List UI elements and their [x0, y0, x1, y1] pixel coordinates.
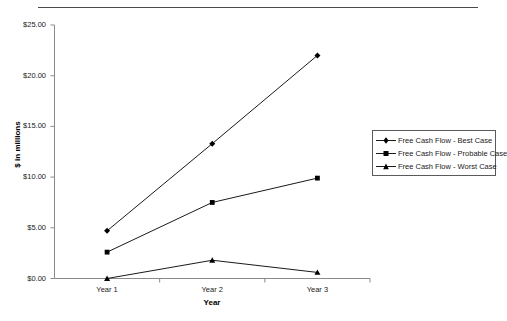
triangle-marker-icon	[376, 161, 396, 172]
chart-legend: Free Cash Flow - Best Case Free Cash Flo…	[372, 130, 496, 176]
axis-lines	[55, 25, 371, 279]
square-marker-icon	[376, 148, 396, 159]
y-axis-tick-label: $15.00	[2, 121, 46, 130]
y-axis-tick-label: $20.00	[2, 71, 46, 80]
x-axis-title: Year	[152, 298, 272, 307]
y-axis-tick-label: $10.00	[2, 172, 46, 181]
y-axis-title: $ in millions	[13, 100, 22, 190]
legend-item-worst-case: Free Cash Flow - Worst Case	[373, 160, 495, 173]
x-axis-tick-label: Year 2	[182, 285, 242, 294]
series-line	[107, 260, 317, 278]
x-axis-tick-label: Year 1	[77, 285, 137, 294]
legend-label-probable-case: Free Cash Flow - Probable Case	[396, 149, 507, 158]
data-series	[105, 176, 320, 255]
y-axis-tick-label: $5.00	[2, 223, 46, 232]
diamond-marker-icon	[376, 135, 396, 146]
data-series-group	[104, 52, 320, 280]
y-axis-tick-label: $25.00	[2, 20, 46, 29]
legend-item-best-case: Free Cash Flow - Best Case	[373, 134, 495, 147]
data-point-marker	[315, 176, 320, 181]
data-series	[104, 257, 320, 281]
y-axis-tick-label: $0.00	[2, 274, 46, 283]
series-line	[107, 178, 317, 252]
y-axis-ticks	[51, 25, 55, 279]
legend-label-best-case: Free Cash Flow - Best Case	[396, 136, 492, 145]
legend-item-probable-case: Free Cash Flow - Probable Case	[373, 147, 495, 160]
data-point-marker	[105, 250, 110, 255]
legend-label-worst-case: Free Cash Flow - Worst Case	[396, 162, 497, 171]
data-series	[104, 52, 320, 233]
data-point-marker	[209, 257, 215, 262]
data-point-marker	[210, 200, 215, 205]
x-axis-ticks	[160, 279, 370, 283]
x-axis-tick-label: Year 3	[287, 285, 347, 294]
